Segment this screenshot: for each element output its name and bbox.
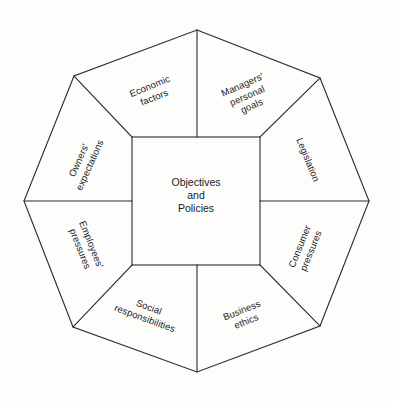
center-label: Objectives and Policies [132,176,260,215]
diagram-canvas: Objectives and Policies Economic factors… [0,0,393,402]
spoke-top-left [74,76,132,137]
spoke-bottom-right [260,265,320,326]
spoke-bottom-left [73,265,132,327]
spoke-top-right [260,78,320,137]
